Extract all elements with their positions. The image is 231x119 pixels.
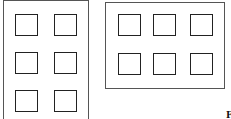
portrait-square-r3c2 <box>54 90 77 112</box>
landscape-square-r1c3 <box>190 14 213 36</box>
portrait-square-r2c2 <box>54 52 77 74</box>
landscape-square-r2c3 <box>190 53 213 75</box>
corner-label: F <box>226 111 231 119</box>
landscape-square-r1c2 <box>153 14 176 36</box>
landscape-square-r2c1 <box>118 53 141 75</box>
portrait-square-r3c1 <box>15 90 38 112</box>
portrait-square-r1c1 <box>15 14 38 36</box>
portrait-square-r2c1 <box>15 52 38 74</box>
landscape-square-r1c1 <box>118 14 141 36</box>
portrait-square-r1c2 <box>54 14 77 36</box>
landscape-square-r2c2 <box>153 53 176 75</box>
